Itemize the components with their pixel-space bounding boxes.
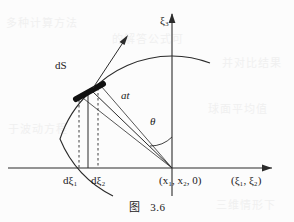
radius-line xyxy=(92,91,172,168)
angle-label: θ xyxy=(150,115,156,127)
normal-vector-line xyxy=(93,38,126,88)
radius-label: at xyxy=(121,89,131,101)
vertical-axis-label: ξ₃ xyxy=(160,14,169,27)
surface-element-label: dS xyxy=(55,59,67,71)
figure-caption-number: 3.6 xyxy=(150,201,165,213)
angle-arc xyxy=(150,137,172,146)
figure-container: 多种计算方法 的解答公式可 并对比结果 于波动方程 球面平均值 三维情形下 ξ₃… xyxy=(0,0,294,222)
horizontal-axis-label: (ξ₁, ξ₂) xyxy=(231,174,262,187)
figure-caption: 图3.6 xyxy=(0,198,294,214)
figure-caption-label: 图 xyxy=(129,201,141,213)
projection-label-1: dξ₁ xyxy=(63,174,77,187)
horizontal-axis-arrowhead xyxy=(262,165,272,172)
surface-element-patch xyxy=(76,84,103,99)
projection-label-2: dξ₂ xyxy=(91,174,105,187)
patch-edge-ray-right xyxy=(101,86,172,168)
geometry-diagram: ξ₃ (ξ₁, ξ₂) dS at θ (x₁, x₂, 0) dξ₁ dξ₂ xyxy=(0,0,294,222)
origin-point-label: (x₁, x₂, 0) xyxy=(159,174,202,187)
patch-edge-ray-left xyxy=(79,95,172,168)
vertical-axis-arrowhead xyxy=(169,13,176,23)
normal-vector-arrowhead xyxy=(120,35,129,45)
